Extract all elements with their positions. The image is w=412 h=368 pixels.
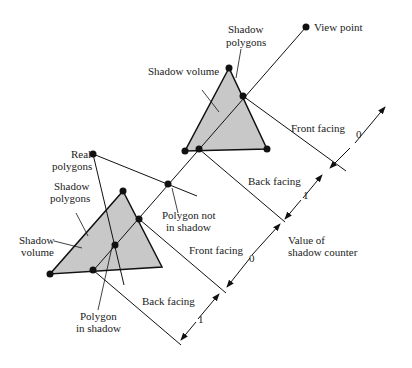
- label-shadow-polygons-top-2: polygons: [226, 36, 266, 48]
- label-polygon-not-in-shadow-1: Polygon not: [162, 209, 215, 221]
- label-polygon-in-shadow-1: Polygon: [80, 310, 117, 322]
- label-polygon-not-in-shadow-2: in shadow: [166, 221, 211, 233]
- counter-value-0-lower: 0: [249, 252, 255, 264]
- shadow-volume-diagram: View point Shadow polygons Shadow volume…: [0, 0, 412, 368]
- real-polygon-upper: [93, 154, 197, 196]
- label-back-facing-top: Back facing: [248, 175, 301, 187]
- label-shadow-volume-bottom-2: volume: [21, 246, 54, 258]
- diagram-svg: View point Shadow polygons Shadow volume…: [0, 0, 412, 368]
- label-front-facing-bottom: Front facing: [189, 244, 244, 256]
- label-real-polygons-2: polygons: [52, 160, 92, 172]
- label-counter-1: Value of: [288, 234, 325, 246]
- label-front-facing-top: Front facing: [291, 122, 346, 134]
- counter-value-1-upper: 1: [303, 189, 309, 201]
- label-shadow-volume-bottom-1: Shadow: [19, 234, 55, 246]
- label-shadow-polygons-bottom-1: Shadow: [54, 180, 90, 192]
- counter-value-1-bottom: 1: [198, 313, 204, 325]
- counter-value-0-top: 0: [356, 128, 362, 140]
- upper-shadow-volume: [185, 68, 267, 151]
- label-shadow-polygons-bottom-2: polygons: [50, 192, 90, 204]
- label-counter-2: shadow counter: [288, 246, 358, 258]
- label-polygon-in-shadow-2: in shadow: [76, 322, 121, 334]
- label-shadow-volume-top: Shadow volume: [148, 65, 219, 77]
- label-back-facing-bottom: Back facing: [142, 295, 195, 307]
- label-shadow-polygons-top-1: Shadow: [228, 23, 264, 35]
- label-view-point: View point: [314, 21, 363, 33]
- label-real-polygons-1: Real: [71, 148, 91, 160]
